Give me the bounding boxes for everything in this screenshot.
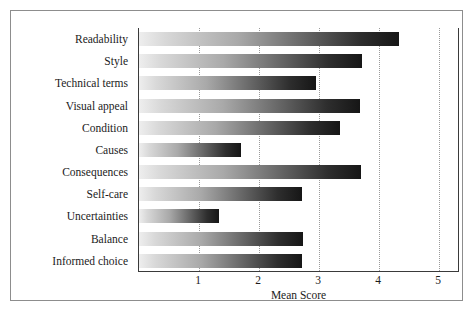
bar-row bbox=[139, 50, 458, 72]
bar bbox=[139, 121, 340, 135]
category-label: Uncertainties bbox=[67, 205, 128, 227]
x-tick-label: 5 bbox=[423, 274, 453, 286]
figure-border: ReadabilityStyleTechnical termsVisual ap… bbox=[10, 10, 463, 301]
category-label: Informed choice bbox=[52, 250, 128, 272]
category-label: Technical terms bbox=[55, 72, 128, 94]
figure-canvas: ReadabilityStyleTechnical termsVisual ap… bbox=[0, 0, 475, 316]
bar-row bbox=[139, 95, 458, 117]
bar bbox=[139, 54, 362, 68]
bar bbox=[139, 187, 302, 201]
bar-row bbox=[139, 205, 458, 227]
category-label: Visual appeal bbox=[66, 95, 128, 117]
bar-row bbox=[139, 228, 458, 250]
bar bbox=[139, 254, 302, 268]
x-tick-label: 3 bbox=[303, 274, 333, 286]
category-axis-labels: ReadabilityStyleTechnical termsVisual ap… bbox=[23, 28, 134, 272]
bar bbox=[139, 209, 219, 223]
bar bbox=[139, 99, 360, 113]
bar bbox=[139, 143, 241, 157]
category-label: Consequences bbox=[62, 161, 128, 183]
category-label: Style bbox=[104, 50, 128, 72]
x-tick-label: 2 bbox=[243, 274, 273, 286]
plot-area bbox=[138, 28, 459, 272]
bar-row bbox=[139, 28, 458, 50]
category-label: Balance bbox=[91, 228, 128, 250]
category-label: Causes bbox=[95, 139, 128, 161]
bar-row bbox=[139, 72, 458, 94]
bar bbox=[139, 76, 316, 90]
bar-series bbox=[139, 28, 458, 271]
bar bbox=[139, 32, 399, 46]
bar-row bbox=[139, 161, 458, 183]
x-tick-label: 1 bbox=[183, 274, 213, 286]
bar-row bbox=[139, 117, 458, 139]
bar-row bbox=[139, 250, 458, 272]
category-label: Readability bbox=[75, 28, 128, 50]
category-label: Self-care bbox=[87, 183, 129, 205]
value-axis-tick-labels: 12345 bbox=[138, 274, 459, 290]
bar-row bbox=[139, 183, 458, 205]
bar bbox=[139, 165, 361, 179]
bar bbox=[139, 232, 303, 246]
bar-row bbox=[139, 139, 458, 161]
x-axis-title: Mean Score bbox=[138, 289, 459, 301]
x-tick-label: 4 bbox=[363, 274, 393, 286]
category-label: Condition bbox=[82, 117, 128, 139]
